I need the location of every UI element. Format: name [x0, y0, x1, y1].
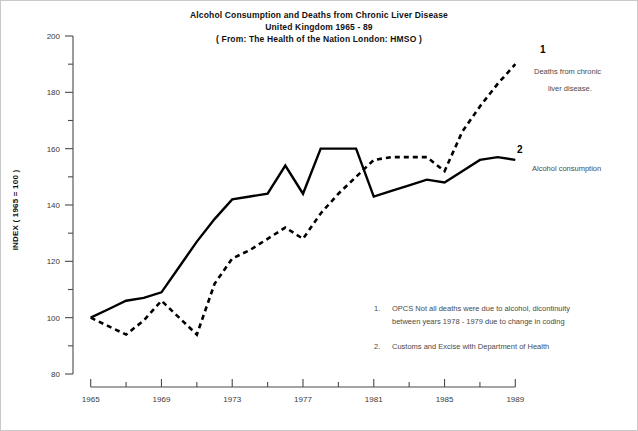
series-caption-2: Alcohol consumption: [532, 164, 601, 173]
series-caption-1: Deaths from chronic: [534, 67, 601, 76]
chart-source-line: ( From: The Health of the Nation London:…: [216, 34, 422, 44]
y-tick-label: 140: [47, 201, 61, 210]
series-line-2: [91, 149, 516, 318]
series-marker-2: 2: [517, 144, 523, 155]
y-tick-label: 80: [51, 370, 60, 379]
x-tick-label: 1965: [82, 395, 100, 404]
note-text-1: between years 1978 - 1979 due to change …: [392, 317, 565, 326]
y-axis: 80100120140160180200: [47, 32, 73, 379]
chart-page: Alcohol Consumption and Deaths from Chro…: [0, 0, 638, 431]
x-tick-label: 1977: [294, 395, 312, 404]
y-tick-label: 120: [47, 257, 61, 266]
note-number-2: 2.: [374, 342, 380, 351]
chart-title-line1: Alcohol Consumption and Deaths from Chro…: [190, 10, 448, 20]
series-marker-1: 1: [540, 44, 546, 55]
chart-title-line2: United Kingdom 1965 - 89: [265, 22, 373, 32]
x-tick-label: 1985: [436, 395, 454, 404]
chart-canvas: Alcohol Consumption and Deaths from Chro…: [1, 1, 638, 431]
x-tick-label: 1969: [153, 395, 171, 404]
x-tick-label: 1989: [506, 395, 524, 404]
x-tick-label: 1973: [223, 395, 241, 404]
series-labels: 1Deaths from chronicliver disease.2Alcoh…: [517, 44, 601, 173]
x-axis: 1965196919731977198119851989: [82, 379, 525, 404]
x-tick-label: 1981: [365, 395, 383, 404]
series-lines: [91, 64, 516, 334]
note-text-1: OPCS Not all deaths were due to alcohol,…: [392, 304, 570, 313]
note-text-2: Customs and Excise with Department of He…: [392, 342, 549, 351]
y-tick-label: 100: [47, 314, 61, 323]
y-tick-label: 160: [47, 145, 61, 154]
y-tick-label: 200: [47, 32, 61, 41]
series-caption-1: liver disease.: [548, 84, 592, 93]
chart-notes: 1.OPCS Not all deaths were due to alcoho…: [374, 304, 570, 351]
y-axis-title: INDEX ( 1965 = 100 ): [11, 170, 20, 251]
y-tick-label: 180: [47, 88, 61, 97]
note-number-1: 1.: [374, 304, 380, 313]
